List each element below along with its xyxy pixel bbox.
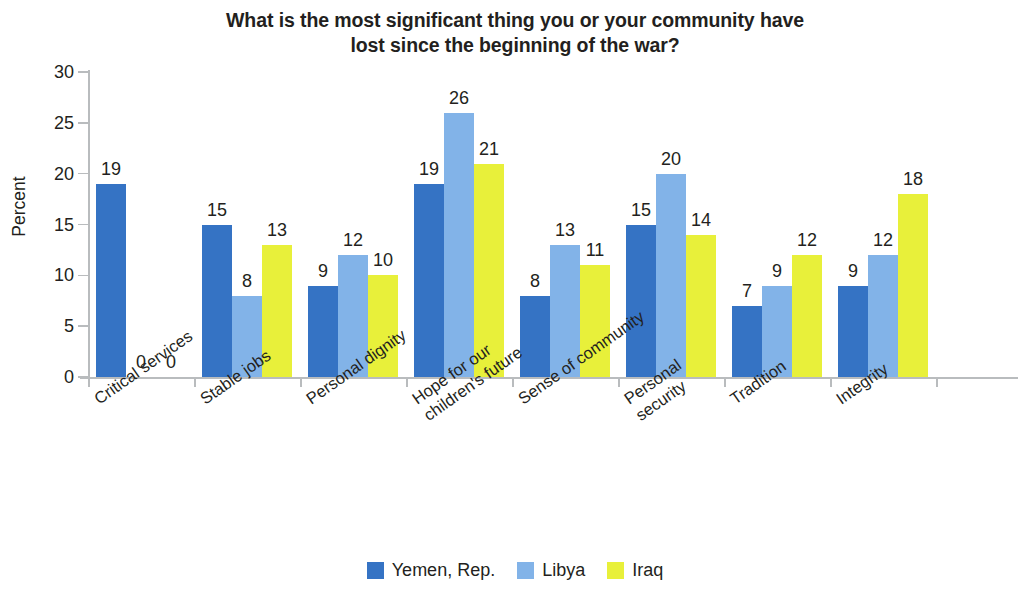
x-axis-tick [300,377,302,387]
legend-item[interactable]: Libya [517,560,585,581]
bar-value-label: 9 [772,261,782,282]
bar [868,255,898,377]
legend-swatch [367,562,384,579]
bar-value-label: 15 [631,200,651,221]
y-axis-tick [78,376,88,378]
bar-value-label: 12 [343,230,363,251]
bar-value-label: 0 [136,352,146,373]
bar-value-label: 11 [586,240,605,261]
bar-value-label: 12 [797,230,817,251]
x-axis-tick [194,377,196,387]
bar-value-label: 15 [207,200,227,221]
bar-value-label: 8 [530,271,540,292]
plot-area [88,72,1018,377]
legend-swatch [517,562,534,579]
bar-value-label: 21 [479,139,499,160]
y-axis-tick-label: 20 [28,163,74,184]
y-axis-tick [78,122,88,124]
y-axis-tick-label: 10 [28,265,74,286]
bar-value-label: 0 [166,352,176,373]
bar-chart: What is the most significant thing you o… [0,0,1030,589]
x-axis-tick [88,377,90,387]
bar [732,306,762,377]
bar-value-label: 9 [318,261,328,282]
x-axis-tick [406,377,408,387]
bar-value-label: 9 [848,261,858,282]
bar-value-label: 13 [555,220,575,241]
chart-legend: Yemen, Rep.LibyaIraq [0,560,1030,581]
bar [626,225,656,378]
bar [656,174,686,377]
bar-value-label: 7 [742,281,752,302]
y-axis-tick [78,71,88,73]
x-axis-tick [724,377,726,387]
legend-item[interactable]: Yemen, Rep. [367,560,495,581]
y-axis-title: Percent [9,162,30,252]
bar-value-label: 26 [449,88,469,109]
bar-value-label: 20 [661,149,681,170]
x-axis-tick [618,377,620,387]
y-axis-tick [78,173,88,175]
bar-value-label: 19 [101,159,121,180]
legend-label: Yemen, Rep. [392,560,495,581]
bar [792,255,822,377]
bar-value-label: 14 [691,210,711,231]
y-axis-tick-label: 0 [28,367,74,388]
x-axis-tick [936,377,938,387]
legend-label: Libya [542,560,585,581]
bar [838,286,868,378]
legend-item[interactable]: Iraq [607,560,663,581]
bar [444,113,474,377]
legend-swatch [607,562,624,579]
y-axis-tick-label: 30 [28,62,74,83]
chart-title: What is the most significant thing you o… [180,8,850,58]
bar-value-label: 12 [873,230,893,251]
bar [898,194,928,377]
y-axis-tick-label: 25 [28,112,74,133]
bar [520,296,550,377]
y-axis-tick [78,275,88,277]
bar-value-label: 19 [419,159,439,180]
bar [96,184,126,377]
bar [202,225,232,378]
bar-value-label: 18 [903,169,923,190]
bar [308,286,338,378]
chart-title-line-1: What is the most significant thing you o… [180,8,850,33]
bar-value-label: 8 [242,271,252,292]
x-axis-tick [830,377,832,387]
y-axis-tick-label: 5 [28,316,74,337]
y-axis-tick [78,325,88,327]
y-axis-tick [78,224,88,226]
bar-value-label: 10 [373,250,393,271]
x-axis-tick [512,377,514,387]
y-axis-tick-label: 15 [28,214,74,235]
chart-title-line-2: lost since the beginning of the war? [180,33,850,58]
legend-label: Iraq [632,560,663,581]
bar-value-label: 13 [267,220,287,241]
bar [414,184,444,377]
bar [686,235,716,377]
